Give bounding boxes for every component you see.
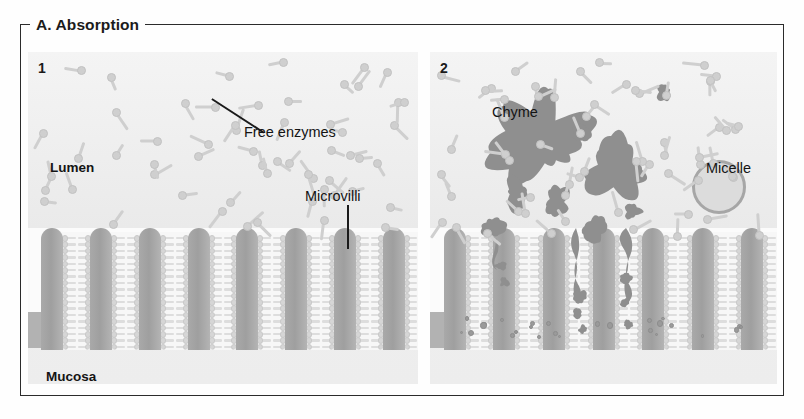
phospholipid-tail [311, 250, 320, 252]
enzyme-head [673, 232, 682, 241]
phospholipid-tail [214, 256, 222, 258]
label-mucosa: Mucosa [46, 369, 96, 384]
phospholipid-tail [519, 243, 528, 245]
phospholipid-tail [360, 250, 369, 252]
microvillus [383, 228, 405, 350]
phospholipid-tail [619, 295, 628, 297]
phospholipid-tail [116, 346, 125, 348]
phospholipid-tail [67, 333, 76, 335]
phospholipid-tail [519, 295, 528, 297]
phospholipid-tail [569, 269, 578, 271]
enzyme-head [505, 156, 514, 165]
enzyme-head [481, 86, 490, 95]
membrane-bilayer-gap [305, 232, 336, 350]
microvillus [285, 228, 307, 350]
enzyme-head [511, 67, 520, 76]
phospholipid-tail [116, 237, 125, 239]
phospholipid-tail [214, 314, 222, 316]
phospholipid-tail [619, 243, 628, 245]
phospholipid-tail [116, 263, 125, 265]
panel-1: 1 [28, 52, 418, 384]
phospholipid-tail [569, 243, 578, 245]
phospholipid-tail [718, 243, 727, 245]
phospholipid-tail [165, 307, 174, 309]
phospholipid-tail [311, 282, 320, 284]
enzyme-head [325, 176, 334, 185]
phospholipid-tail [409, 288, 417, 290]
phospholipid-tail [67, 339, 76, 341]
enzyme-head [550, 93, 559, 102]
phospholipid-tail [718, 307, 727, 309]
phospholipid-tail [470, 256, 479, 258]
enzyme-head [483, 229, 492, 238]
phospholipid-tail [360, 282, 369, 284]
phospholipid-tail [165, 243, 174, 245]
phospholipid-tail [409, 327, 417, 329]
enzyme-head [178, 191, 187, 200]
phospholipid-tail [470, 295, 479, 297]
phospholipid-tail [569, 256, 578, 258]
label-micelle: Micelle [706, 160, 751, 176]
microvillus [188, 228, 210, 350]
phospholipid-tail [262, 327, 271, 329]
phospholipid-tail [311, 333, 320, 335]
enzyme-head [590, 100, 599, 109]
enzyme-head [629, 225, 638, 234]
phospholipid-tail [262, 256, 271, 258]
phospholipid-tail [214, 307, 222, 309]
phospholipid-tail [311, 346, 320, 348]
phospholipid-tail [767, 320, 776, 322]
membrane-bilayer-gap [61, 232, 92, 350]
phospholipid-tail [311, 263, 320, 265]
phospholipid-tail [718, 282, 727, 284]
phospholipid-tail [718, 256, 727, 258]
phospholipid-tail [767, 275, 776, 277]
absorbed-nutrient-particle [739, 325, 743, 329]
phospholipid-tail [409, 263, 417, 265]
phospholipid-tail [668, 301, 677, 303]
enzyme-head [531, 82, 540, 91]
absorbed-nutrient-particle [669, 323, 674, 328]
phospholipid-tail [569, 327, 578, 329]
membrane-bilayer-gap [761, 232, 777, 350]
enzyme-head [355, 154, 364, 163]
phospholipid-tail [116, 314, 125, 316]
phospholipid-tail [116, 301, 125, 303]
phospholipid-tail [116, 269, 125, 271]
phospholipid-tail [311, 295, 320, 297]
microvillus [642, 228, 664, 350]
absorbed-nutrient-particle [648, 328, 653, 333]
phospholipid-tail [116, 282, 125, 284]
phospholipid-tail [718, 333, 727, 335]
phospholipid-tail [470, 320, 479, 322]
phospholipid-tail [311, 256, 320, 258]
phospholipid-tail [569, 237, 578, 239]
phospholipid-tail [116, 339, 125, 341]
phospholipid-tail [165, 282, 174, 284]
enzyme-head [39, 129, 48, 138]
phospholipid-tail [619, 307, 628, 309]
phospholipid-tail [668, 307, 677, 309]
phospholipid-tail [519, 333, 528, 335]
phospholipid-tail [668, 288, 677, 290]
phospholipid-tail [470, 282, 479, 284]
enzyme-head [254, 101, 263, 110]
phospholipid-tail [360, 288, 369, 290]
phospholipid-tail [262, 237, 271, 239]
phospholipid-tail [360, 243, 369, 245]
phospholipid-tail [668, 263, 677, 265]
phospholipid-tail [67, 320, 76, 322]
membrane-bilayer-gap [256, 232, 287, 350]
enzyme-head [521, 209, 530, 218]
phospholipid-tail [165, 288, 174, 290]
enzyme-head [150, 160, 159, 169]
phospholipid-tail [165, 301, 174, 303]
phospholipid-tail [214, 339, 222, 341]
enzyme-head [153, 137, 162, 146]
enzyme-head [383, 68, 392, 77]
phospholipid-tail [619, 314, 628, 316]
phospholipid-tail [262, 269, 271, 271]
membrane-bilayer-gap [159, 232, 190, 350]
label-chyme: Chyme [492, 104, 538, 120]
phospholipid-tail [165, 339, 174, 341]
